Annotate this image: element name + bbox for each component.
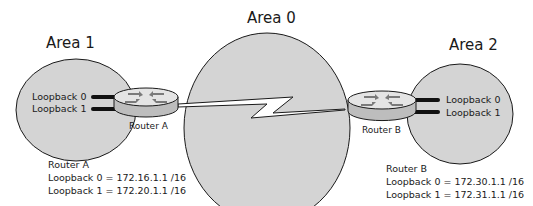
area-1-label: Area 1 bbox=[46, 34, 95, 52]
router-b-loopback1-label: Loopback 1 bbox=[446, 107, 500, 118]
router-b-info-line: Loopback 0 = 172.30.1.1 /16 bbox=[386, 175, 524, 188]
router-a-icon bbox=[114, 88, 178, 117]
router-b-info-title: Router B bbox=[386, 162, 524, 175]
router-a-info-line: Loopback 0 = 172.16.1.1 /16 bbox=[48, 171, 186, 184]
area-0-circle bbox=[184, 33, 350, 206]
router-b-loopback0-label: Loopback 0 bbox=[446, 94, 500, 105]
router-b-label: Router B bbox=[362, 125, 401, 135]
router-b-icon bbox=[348, 91, 416, 121]
router-a-loopback0-label: Loopback 0 bbox=[32, 91, 86, 102]
router-a-info-title: Router A bbox=[48, 158, 186, 171]
router-a-label: Router A bbox=[129, 121, 168, 131]
router-b-info-line: Loopback 1 = 172.31.1.1 /16 bbox=[386, 188, 524, 201]
area-2-label: Area 2 bbox=[449, 36, 498, 54]
router-a-loopback1-label: Loopback 1 bbox=[32, 103, 86, 114]
area-0-label: Area 0 bbox=[247, 9, 296, 27]
router-a-info: Router A Loopback 0 = 172.16.1.1 /16 Loo… bbox=[48, 158, 186, 197]
ospf-topology-diagram: Area 1 Area 0 Area 2 Loopback 0 Loopback… bbox=[0, 0, 533, 206]
router-a-info-line: Loopback 1 = 172.20.1.1 /16 bbox=[48, 184, 186, 197]
router-b-info: Router B Loopback 0 = 172.30.1.1 /16 Loo… bbox=[386, 162, 524, 201]
